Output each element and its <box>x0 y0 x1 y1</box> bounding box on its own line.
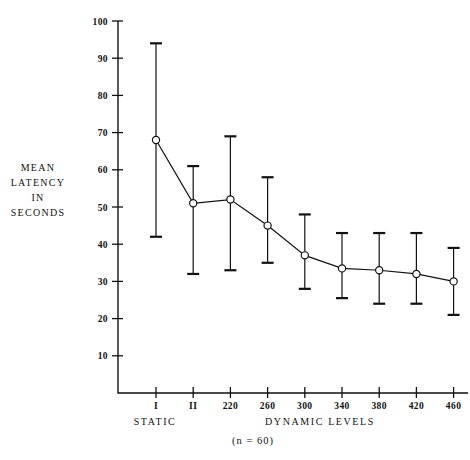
chart-caption: (n = 60) <box>232 435 274 447</box>
x-tick-label: 340 <box>334 401 349 411</box>
x-tick-label: 380 <box>371 401 386 411</box>
data-point-marker <box>376 267 383 274</box>
x-tick-label: I <box>154 401 158 411</box>
y-tick-label: 30 <box>98 277 108 287</box>
y-tick-label: 70 <box>98 128 108 138</box>
group-label-static: STATIC <box>134 416 177 427</box>
data-point-marker <box>450 278 457 285</box>
x-tick-label: 260 <box>260 401 275 411</box>
data-point-marker <box>190 200 197 207</box>
x-tick-label: 300 <box>297 401 312 411</box>
y-tick-label: 80 <box>98 91 108 101</box>
data-point-marker <box>227 196 234 203</box>
figure-container: MEAN LATENCY IN SECONDS 1009080706050403… <box>0 0 470 460</box>
axis-lines <box>118 21 468 393</box>
group-label-dynamic: DYNAMIC LEVELS <box>265 416 375 427</box>
x-tick-label: 420 <box>409 401 424 411</box>
x-axis-tick-labels: III220260300340380420460 <box>154 401 461 411</box>
y-tick-label: 40 <box>98 240 108 250</box>
y-tick-label: 100 <box>93 17 108 27</box>
data-point-marker <box>152 136 159 143</box>
x-tick-label: II <box>189 401 197 411</box>
data-point-marker <box>413 270 420 277</box>
y-tick-label: 90 <box>98 54 108 64</box>
y-tick-label: 50 <box>98 203 108 213</box>
y-tick-label: 20 <box>98 314 108 324</box>
x-tick-label: 220 <box>223 401 238 411</box>
data-point-marker <box>264 222 271 229</box>
line-chart-plot: 100908070605040302010 III220260300340380… <box>0 0 470 460</box>
data-point-marker <box>301 252 308 259</box>
data-point-marker <box>338 265 345 272</box>
x-tick-label: 460 <box>446 401 461 411</box>
axes-group <box>118 21 468 393</box>
y-tick-label: 10 <box>98 351 108 361</box>
y-tick-label: 60 <box>98 165 108 175</box>
